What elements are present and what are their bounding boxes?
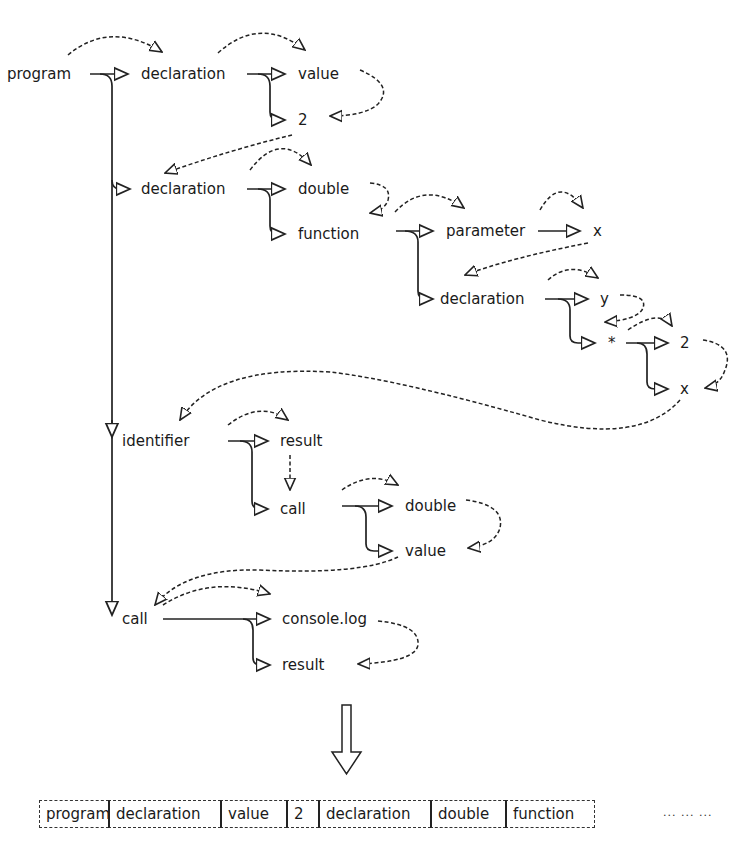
sequence-ellipsis: ... ... ...: [663, 806, 712, 819]
node-literal-2: 2: [298, 111, 308, 129]
node-x: x: [593, 222, 602, 240]
node-program: program: [7, 65, 71, 83]
node-parameter: parameter: [446, 222, 525, 240]
sequence-cell: declaration: [318, 800, 431, 828]
sequence-cell: double: [430, 800, 506, 828]
sequence-cell: 2: [286, 800, 319, 828]
node-value: value: [405, 542, 446, 560]
node-console-log: console.log: [282, 610, 367, 628]
down-arrow-icon: [332, 705, 361, 774]
node-call: call: [280, 500, 306, 518]
traversal-edges: [68, 33, 727, 664]
node-declaration: declaration: [440, 290, 524, 308]
sequence-cell: function: [505, 800, 595, 828]
ast-traversal-diagram: [0, 0, 749, 867]
node-double: double: [405, 497, 456, 515]
node-identifier: identifier: [122, 432, 189, 450]
node-multiply: *: [608, 334, 616, 352]
sequence-cell: program: [39, 800, 109, 828]
node-double: double: [298, 180, 349, 198]
node-x: x: [680, 380, 689, 398]
node-function: function: [298, 225, 359, 243]
token-sequence: program declaration value 2 declaration …: [39, 800, 595, 830]
node-value: value: [298, 65, 339, 83]
node-call: call: [122, 610, 148, 628]
tree-edges: [90, 74, 668, 665]
node-result: result: [280, 432, 322, 450]
node-declaration: declaration: [141, 65, 225, 83]
node-result: result: [282, 656, 324, 674]
sequence-cell: declaration: [108, 800, 221, 828]
sequence-cell: value: [220, 800, 287, 828]
node-declaration: declaration: [141, 180, 225, 198]
node-literal-2: 2: [680, 334, 690, 352]
node-y: y: [600, 290, 609, 308]
